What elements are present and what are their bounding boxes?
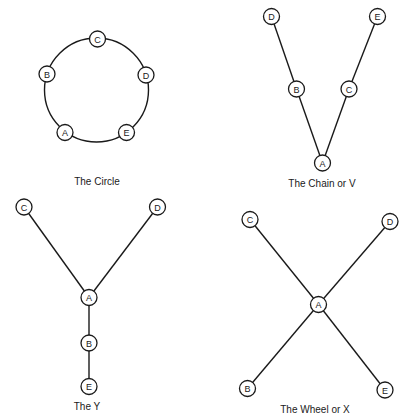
node-c: C [16,199,32,215]
edge-d-a [89,207,158,298]
node-e: E [119,125,135,141]
diagram-circle: CBDAE The Circle [39,31,154,187]
node-label: E [123,128,129,138]
node-c: C [90,31,106,47]
edge-c-a [323,89,350,163]
diagram-chain: DEBCA The Chain or V [264,9,386,189]
node-label: B [44,70,50,80]
node-label: B [86,339,92,349]
node-c: C [242,212,258,228]
node-a: A [315,155,331,171]
node-label: E [86,382,92,392]
node-a: A [311,297,327,313]
edges [272,17,378,164]
node-label: A [86,293,92,303]
node-b: B [81,335,97,351]
network-diagrams-canvas: CBDAE The Circle DEBCA The Chain or V CD… [0,0,410,417]
edge-a-e [319,305,386,391]
node-label: D [154,203,161,213]
node-label: B [293,85,299,95]
nodes: CDABE [16,199,166,395]
node-c: C [341,81,357,97]
communication-networks-figure: CBDAE The Circle DEBCA The Chain or V CD… [0,0,410,417]
node-label: B [244,384,250,394]
node-label: A [315,300,321,310]
node-b: B [240,381,256,397]
edge-d-a [319,222,391,305]
edge-d-b [272,17,297,90]
edge-c-a [250,220,319,305]
nodes: DEBCA [264,9,386,172]
node-e: E [81,379,97,395]
edge-c-a [24,207,89,298]
edge-b-a [297,89,323,163]
edge-a-b [248,305,319,389]
node-label: C [346,85,353,95]
node-label: A [319,159,325,169]
node-label: C [94,35,101,45]
node-label: C [247,215,254,225]
node-label: D [268,12,275,22]
diagram-y: CDABE The Y [16,199,166,412]
node-d: D [150,199,166,215]
node-label: D [387,217,394,227]
node-e: E [377,382,393,398]
node-label: A [62,128,68,138]
caption-chain: The Chain or V [288,178,356,189]
node-label: E [382,386,388,396]
node-d: D [138,67,154,83]
node-d: D [382,214,398,230]
node-e: E [370,9,386,25]
caption-y: The Y [74,401,101,412]
node-a: A [81,290,97,306]
caption-circle: The Circle [74,176,120,187]
nodes: CBDAE [39,31,154,141]
node-b: B [39,66,55,82]
node-label: C [21,203,28,213]
diagram-wheel: CDABE The Wheel or X [240,212,399,415]
node-a: A [57,125,73,141]
node-d: D [264,9,280,25]
node-label: D [143,71,150,81]
node-b: B [289,81,305,97]
node-label: E [374,12,380,22]
edge-e-c [349,17,378,90]
caption-wheel: The Wheel or X [280,404,350,415]
